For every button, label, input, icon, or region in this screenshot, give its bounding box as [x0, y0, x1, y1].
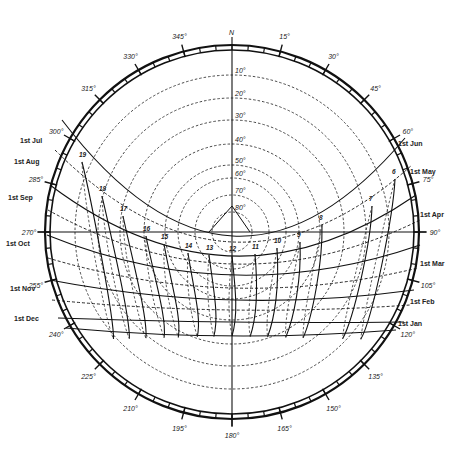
- ring-tick: [112, 89, 115, 93]
- azimuth-label: 330°: [123, 53, 138, 60]
- ring-tick: [336, 381, 339, 385]
- ring-tick: [48, 264, 53, 265]
- month-label: 1st Aug: [14, 158, 39, 166]
- ring-tick: [371, 112, 375, 115]
- month-label: 1st Dec: [14, 315, 39, 322]
- azimuth-label: 225°: [80, 373, 96, 380]
- sun-path-curves: [47, 120, 420, 336]
- azimuth-label: 180°: [225, 432, 240, 439]
- azimuth-label: 300°: [49, 128, 64, 135]
- ring-tick: [336, 79, 339, 83]
- ring-tick: [79, 336, 83, 339]
- hour-label: 15: [161, 233, 169, 240]
- hour-line: [232, 256, 236, 336]
- hour-label: 7: [369, 195, 373, 202]
- ring-tick: [79, 125, 83, 128]
- azimuth-label: 270°: [21, 229, 37, 236]
- azimuth-label: 135°: [368, 373, 383, 380]
- hour-label: 16: [143, 225, 151, 232]
- ring-tick: [371, 349, 375, 352]
- altitude-label: 70°: [235, 187, 246, 194]
- ring-tick: [349, 371, 352, 375]
- azimuth-label: 315°: [81, 85, 96, 92]
- ring-tick: [381, 336, 385, 339]
- sun-path-curve: [62, 120, 405, 236]
- ring-tick: [200, 48, 201, 53]
- azimuth-label: 195°: [172, 425, 187, 432]
- hour-label: 8: [319, 214, 323, 221]
- chart-labels: N15°30°45°60°75°90°105°120°135°150°165°1…: [6, 29, 445, 439]
- hour-line: [146, 236, 164, 338]
- month-label: 1st Jan: [398, 320, 422, 327]
- month-label: 1st May: [410, 168, 436, 176]
- month-label: 1st Oct: [6, 240, 30, 247]
- ring-tick: [411, 200, 416, 201]
- north-label: N: [229, 29, 235, 36]
- ring-tick: [168, 56, 170, 61]
- azimuth-label: 90°: [430, 229, 441, 236]
- hour-label: 13: [206, 244, 214, 251]
- month-label: 1st Sep: [8, 194, 33, 202]
- ring-tick: [112, 371, 115, 375]
- altitude-label: 80°: [235, 204, 246, 211]
- ring-tick: [125, 79, 128, 83]
- ring-tick: [200, 411, 201, 416]
- hour-line: [361, 179, 395, 339]
- month-label: 1st Nov: [10, 285, 35, 292]
- ring-tick: [89, 349, 93, 352]
- hour-label: 12: [229, 245, 237, 252]
- hour-line-dashed: [82, 162, 114, 339]
- altitude-label: 50°: [235, 157, 246, 164]
- altitude-label: 10°: [235, 67, 246, 74]
- ring-tick: [56, 294, 61, 296]
- hour-label: 6: [392, 168, 396, 175]
- hour-line: [343, 206, 372, 339]
- ring-tick: [48, 200, 53, 201]
- azimuth-label: 105°: [421, 282, 436, 289]
- ring-tick: [125, 381, 128, 385]
- hour-label: 10: [274, 237, 282, 244]
- azimuth-label: 45°: [370, 85, 381, 92]
- hour-line: [82, 162, 114, 339]
- month-label: 1st Feb: [410, 298, 435, 305]
- azimuth-label: 165°: [277, 425, 292, 432]
- hour-line-dashed: [102, 196, 129, 339]
- ring-tick: [403, 168, 408, 170]
- azimuth-label: 210°: [122, 405, 138, 412]
- altitude-label: 30°: [235, 112, 246, 119]
- azimuth-label: 240°: [48, 331, 64, 338]
- ring-tick: [349, 89, 352, 93]
- sun-path-curve: [58, 318, 404, 323]
- azimuth-label: 150°: [326, 405, 341, 412]
- hour-line: [286, 242, 301, 337]
- ring-tick: [264, 48, 265, 53]
- ring-tick: [264, 411, 265, 416]
- month-label: 1st Mar: [420, 260, 445, 267]
- ring-tick: [294, 56, 296, 61]
- hour-line-dashed: [361, 179, 395, 339]
- hour-line: [188, 253, 199, 337]
- altitude-label: 20°: [234, 90, 246, 97]
- ring-tick: [294, 403, 296, 408]
- azimuth-label: 285°: [28, 176, 44, 183]
- hour-line-dashed: [343, 206, 372, 339]
- hour-label: 18: [99, 185, 107, 192]
- azimuth-label: 120°: [401, 331, 416, 338]
- sun-path-diagram: N15°30°45°60°75°90°105°120°135°150°165°1…: [0, 0, 458, 456]
- azimuth-label: 345°: [172, 33, 187, 40]
- hour-label: 11: [252, 243, 259, 250]
- sun-path-curve: [52, 300, 410, 310]
- ring-tick: [381, 125, 385, 128]
- altitude-label: 60°: [235, 170, 246, 177]
- hour-label: 14: [185, 242, 193, 249]
- hour-label: 9: [297, 231, 301, 238]
- azimuth-label: 75°: [423, 176, 434, 183]
- azimuth-label: 60°: [403, 128, 414, 135]
- ring-tick: [403, 294, 408, 296]
- month-label: 1st Apr: [420, 211, 444, 219]
- azimuth-label: 30°: [328, 53, 339, 60]
- hour-line: [268, 248, 278, 337]
- month-label: 1st Jun: [398, 140, 423, 147]
- ring-tick: [168, 403, 170, 408]
- ring-tick: [89, 112, 93, 115]
